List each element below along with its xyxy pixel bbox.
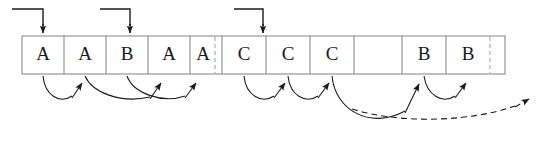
- cell-label-0: A: [36, 43, 50, 64]
- cell-label-3: A: [162, 43, 176, 64]
- array-linking-diagram: A A B A A C C C B B: [0, 0, 551, 143]
- link-arrow-group: [43, 76, 529, 119]
- link-a2-to-a4: [85, 76, 150, 99]
- link-a1-to-a2: [43, 76, 72, 99]
- array-outline: [22, 36, 505, 74]
- cell-label-7: C: [326, 43, 339, 64]
- cell-label-5: C: [238, 43, 251, 64]
- link-b10-to-b11-arrowhead-icon: [455, 83, 466, 98]
- link-c6-to-c7-arrowhead-icon: [274, 83, 285, 98]
- link-b3-to-a5: [127, 76, 185, 99]
- link-b11-to-next: [352, 106, 515, 119]
- link-c7-to-c8: [288, 76, 318, 99]
- array-row: A A B A A C C C B B: [22, 36, 505, 74]
- pointer-3-stem: [234, 9, 263, 26]
- cell-label-10: B: [462, 43, 475, 64]
- link-a1-to-a2-arrowhead-icon: [72, 83, 82, 98]
- link-b11-to-next-arrowhead-icon: [515, 99, 529, 107]
- cell-label-2: B: [121, 43, 134, 64]
- cell-label-9: B: [418, 43, 431, 64]
- link-b10-to-b11: [424, 76, 455, 99]
- top-pointer-group: [12, 9, 263, 33]
- cell-label-4: A: [196, 43, 210, 64]
- cell-label-6: C: [282, 43, 295, 64]
- pointer-1-stem: [12, 9, 43, 26]
- link-c8-to-b10-arrowhead-icon: [405, 84, 419, 113]
- cell-label-1: A: [78, 43, 92, 64]
- pointer-2-stem: [100, 9, 130, 26]
- link-c7-to-c8-arrowhead-icon: [318, 83, 329, 98]
- link-c8-to-b10: [332, 76, 405, 118]
- link-c6-to-c7: [244, 76, 274, 99]
- link-b3-to-a5-arrowhead-icon: [185, 83, 196, 98]
